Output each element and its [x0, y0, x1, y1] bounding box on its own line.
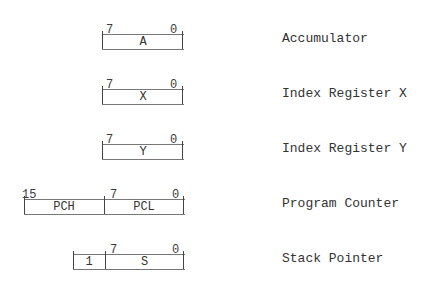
cell-y: Y: [102, 145, 184, 159]
register-box: PCH PCL: [24, 199, 185, 215]
register-box: 1 S: [73, 254, 185, 270]
register-box: A: [102, 34, 184, 50]
cell-pcl: PCL: [104, 200, 184, 214]
register-name: Stack Pointer: [282, 252, 383, 266]
register-name: Index Register X: [282, 87, 407, 101]
register-box: Y: [102, 144, 184, 160]
cell-a: A: [102, 35, 184, 49]
cell-one: 1: [73, 255, 105, 269]
register-box: X: [102, 89, 184, 105]
cell-x: X: [102, 90, 184, 104]
cell-pch: PCH: [24, 200, 104, 214]
register-name: Program Counter: [282, 197, 399, 211]
cell-s: S: [105, 255, 184, 269]
register-name: Accumulator: [282, 32, 368, 46]
register-name: Index Register Y: [282, 142, 407, 156]
